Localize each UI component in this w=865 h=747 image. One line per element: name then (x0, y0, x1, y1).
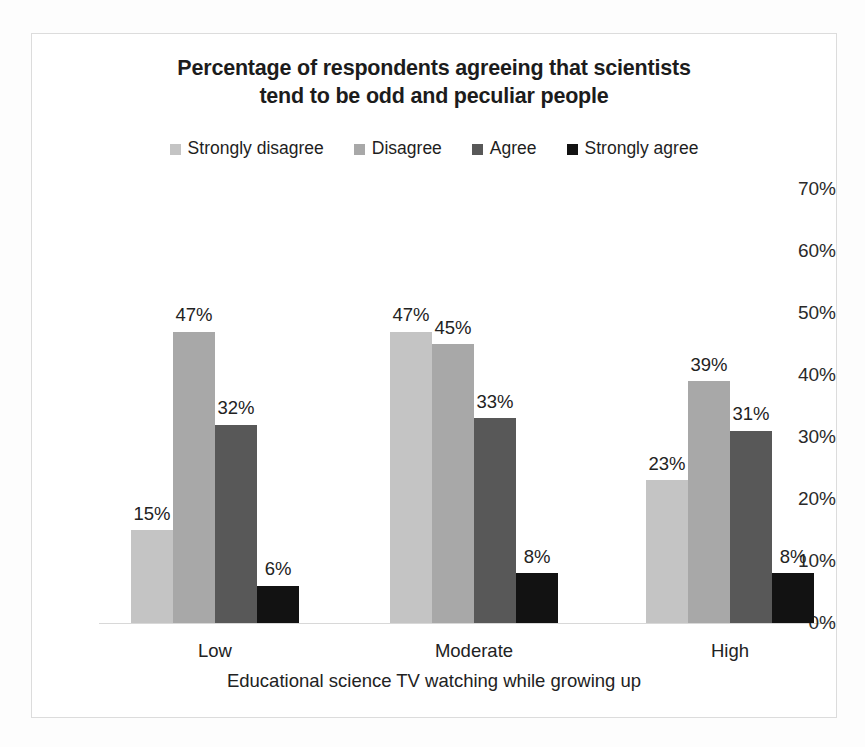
x-axis-category-label-low: Low (198, 640, 232, 662)
bar-moderate-strongly-disagree[interactable] (390, 332, 432, 623)
bar-value-label: 47% (392, 306, 429, 325)
bar-slot: 31% (730, 34, 772, 623)
bar-value-label: 6% (265, 560, 292, 579)
bar-value-label: 45% (434, 319, 471, 338)
x-axis-title: Educational science TV watching while gr… (32, 670, 836, 692)
bar-value-label: 31% (732, 405, 769, 424)
bar-group-moderate: 47%45%33%8% (390, 34, 558, 623)
x-axis-category-label-high: High (711, 640, 749, 662)
bar-slot: 23% (646, 34, 688, 623)
bar-high-disagree[interactable] (688, 381, 730, 623)
bar-slot: 39% (688, 34, 730, 623)
bar-slot: 6% (257, 34, 299, 623)
plot-area: 0%10%20%30%40%50%60%70%15%47%32%6%Low47%… (32, 34, 836, 717)
bar-moderate-agree[interactable] (474, 418, 516, 623)
bar-low-strongly-agree[interactable] (257, 586, 299, 623)
bar-slot: 15% (131, 34, 173, 623)
bar-high-strongly-disagree[interactable] (646, 480, 688, 623)
bar-moderate-strongly-agree[interactable] (516, 573, 558, 623)
bar-group-low: 15%47%32%6% (131, 34, 299, 623)
bar-value-label: 23% (648, 455, 685, 474)
bar-slot: 47% (390, 34, 432, 623)
bar-slot: 32% (215, 34, 257, 623)
bar-slot: 45% (432, 34, 474, 623)
chart-screenshot: Percentage of respondents agreeing that … (0, 0, 865, 747)
bar-group-high: 23%39%31%8% (646, 34, 814, 623)
x-axis-category-label-moderate: Moderate (435, 640, 513, 662)
bar-low-strongly-disagree[interactable] (131, 530, 173, 623)
bar-value-label: 32% (217, 399, 254, 418)
bar-low-agree[interactable] (215, 425, 257, 623)
bar-value-label: 8% (524, 548, 551, 567)
bar-low-disagree[interactable] (173, 332, 215, 623)
bar-value-label: 8% (780, 548, 807, 567)
bar-moderate-disagree[interactable] (432, 344, 474, 623)
bar-slot: 8% (516, 34, 558, 623)
bar-slot: 8% (772, 34, 814, 623)
bar-value-label: 39% (690, 356, 727, 375)
bar-high-agree[interactable] (730, 431, 772, 623)
bar-value-label: 15% (133, 505, 170, 524)
bar-value-label: 33% (476, 393, 513, 412)
bar-value-label: 47% (175, 306, 212, 325)
x-axis-baseline (99, 623, 835, 624)
bar-high-strongly-agree[interactable] (772, 573, 814, 623)
chart-frame: Percentage of respondents agreeing that … (31, 33, 837, 718)
bar-slot: 33% (474, 34, 516, 623)
bar-slot: 47% (173, 34, 215, 623)
